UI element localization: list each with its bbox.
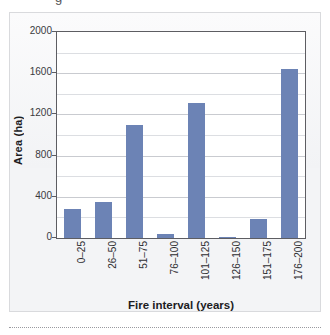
x-axis-tick-label: 176–200 (294, 241, 304, 297)
x-axis-tick-label: 26–50 (108, 241, 118, 297)
gridline-major (57, 197, 305, 198)
x-axis-tick-label: 126–150 (232, 241, 242, 297)
gridline-major (57, 73, 305, 74)
x-axis-title: Fire interval (years) (56, 299, 306, 311)
x-axis-tick-label: 76–100 (170, 241, 180, 297)
x-axis-tick-label: 51–75 (139, 241, 149, 297)
y-axis-tick-label: 1600 (30, 67, 52, 77)
x-axis-tick-label: 151–175 (263, 241, 273, 297)
x-axis-tick-label: 0–25 (77, 241, 87, 297)
y-axis-tick-label: 2000 (30, 26, 52, 36)
cropped-text-above-figure: g (55, 0, 75, 5)
y-axis-tick-label: 800 (35, 150, 52, 160)
bar (126, 125, 143, 238)
y-axis-tick-label: 1200 (30, 108, 52, 118)
plot-area (56, 31, 306, 239)
bar (157, 234, 174, 238)
bar (219, 237, 236, 238)
bar (64, 209, 81, 238)
bar (281, 69, 298, 238)
y-axis-tick-label: 400 (35, 191, 52, 201)
x-axis-tick-label: 101–125 (201, 241, 211, 297)
bar (95, 202, 112, 238)
x-axis-tick-labels: 0–2526–5051–7576–100101–125126–150151–17… (56, 241, 306, 297)
gridline-minor (57, 53, 305, 54)
gridline-minor (57, 176, 305, 177)
bottom-dotted-rule (9, 327, 321, 329)
gridline-major (57, 114, 305, 115)
gridline-minor (57, 94, 305, 95)
y-axis-tick-labels: 2000160012008004000 (10, 31, 52, 239)
bar (188, 103, 205, 238)
figure-panel: Area (ha) 2000160012008004000 0–2526–505… (9, 12, 321, 312)
gridline-major (57, 156, 305, 157)
gridline-minor (57, 135, 305, 136)
bar (250, 219, 267, 238)
